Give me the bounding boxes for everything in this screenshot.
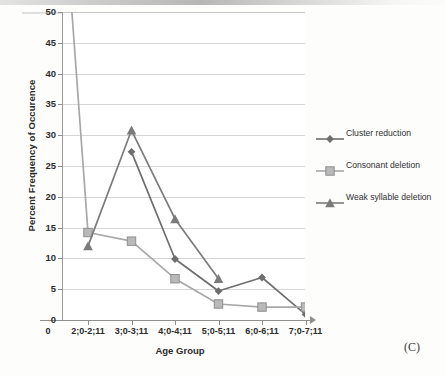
legend-label: Weak syllable deletion (346, 192, 442, 204)
square-marker (301, 303, 309, 311)
square-marker (326, 167, 334, 175)
x-axis-tick (262, 321, 263, 325)
legend-item-weak-syllable-deletion[interactable]: Weak syllable deletion (316, 192, 442, 205)
y-axis-tick (58, 289, 62, 290)
x-axis-tick (219, 321, 220, 325)
figure-caption: (C) (404, 340, 420, 355)
x-axis-tick (132, 321, 133, 325)
x-axis-tick (306, 321, 307, 325)
series-consonant-deletion (62, 0, 310, 311)
y-axis-tick (58, 166, 62, 167)
series-cluster-reduction (128, 148, 310, 318)
legend-item-consonant-deletion[interactable]: Consonant deletion (316, 160, 442, 173)
triangle-marker (170, 214, 180, 223)
diamond-marker (326, 135, 334, 143)
legend-diamond-icon (316, 130, 344, 140)
legend-label: Consonant deletion (346, 160, 442, 172)
chart-legend: Cluster reductionConsonant deletionWeak … (316, 128, 442, 224)
y-axis-tick (58, 135, 62, 136)
y-axis-tick (58, 12, 62, 13)
legend-square-icon (316, 162, 344, 172)
legend-label: Cluster reduction (346, 128, 442, 140)
y-axis-tick (58, 197, 62, 198)
square-marker (171, 275, 179, 283)
y-axis-tick (58, 104, 62, 105)
y-axis-tick (58, 74, 62, 75)
line-chart-figure: 05101520253035404550 Percent Frequency o… (0, 0, 445, 376)
square-marker (84, 228, 92, 236)
square-marker (127, 237, 135, 245)
y-axis-tick (58, 43, 62, 44)
x-axis-tick (88, 321, 89, 325)
triangle-marker (127, 125, 137, 134)
square-marker (258, 303, 266, 311)
legend-item-cluster-reduction[interactable]: Cluster reduction (316, 128, 442, 141)
square-marker (214, 300, 222, 308)
y-axis-tick (58, 228, 62, 229)
x-axis-tick (175, 321, 176, 325)
series-line (62, 0, 306, 307)
y-axis-tick (58, 320, 62, 321)
triangle-marker (83, 241, 93, 250)
legend-triangle-icon (316, 194, 344, 204)
diamond-marker (128, 148, 136, 156)
y-axis-tick (58, 258, 62, 259)
